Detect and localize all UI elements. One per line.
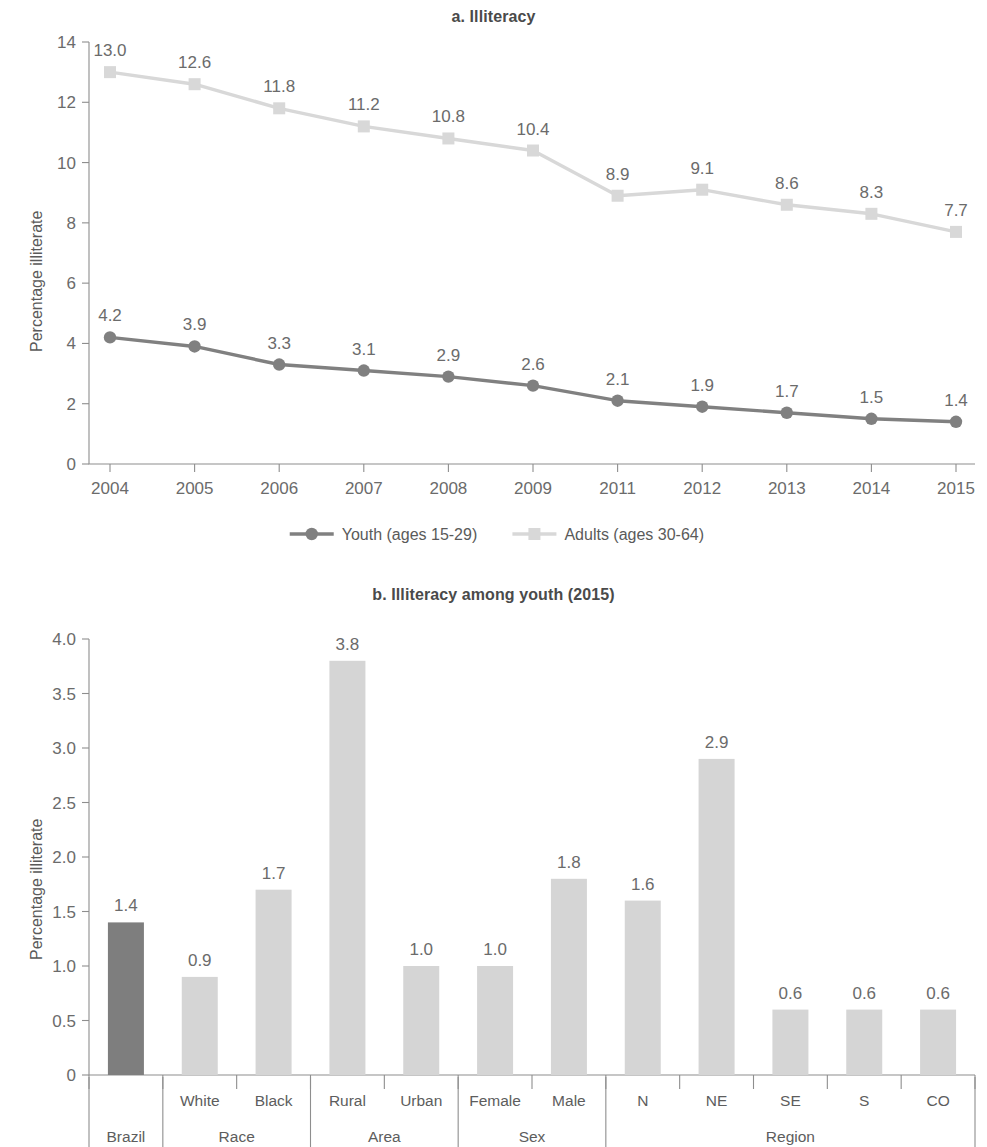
bar[interactable] bbox=[477, 966, 513, 1075]
category-label: NE bbox=[706, 1092, 728, 1109]
bar-value-label: 0.9 bbox=[188, 951, 212, 970]
y-tick-label: 1.0 bbox=[52, 957, 76, 976]
y-tick-label: 3.5 bbox=[52, 685, 76, 704]
category-label: CO bbox=[926, 1092, 949, 1109]
y-tick-label: 1.5 bbox=[52, 903, 76, 922]
category-label: Male bbox=[552, 1092, 586, 1109]
category-label: Female bbox=[469, 1092, 521, 1109]
category-label: Rural bbox=[329, 1092, 366, 1109]
bar-value-label: 1.6 bbox=[631, 875, 655, 894]
bar[interactable] bbox=[772, 1010, 808, 1075]
panel-b-axes bbox=[89, 639, 975, 1075]
group-label: Race bbox=[219, 1128, 255, 1145]
y-tick-label: 3.0 bbox=[52, 739, 76, 758]
bar[interactable] bbox=[699, 759, 735, 1075]
bar[interactable] bbox=[625, 901, 661, 1075]
group-label: Region bbox=[766, 1128, 815, 1145]
panel-b-chart: 00.51.01.52.02.53.03.54.01.40.91.73.81.0… bbox=[0, 0, 987, 1147]
category-label: White bbox=[180, 1092, 220, 1109]
y-tick-label: 0.5 bbox=[52, 1012, 76, 1031]
y-tick-label: 0 bbox=[67, 1066, 76, 1085]
figure-root: a. Illiteracy Percentage illiterate 0246… bbox=[0, 0, 987, 1147]
bar[interactable] bbox=[846, 1010, 882, 1075]
bar-value-label: 0.6 bbox=[852, 984, 876, 1003]
bar-value-label: 0.6 bbox=[779, 984, 803, 1003]
bar[interactable] bbox=[108, 922, 144, 1075]
category-label: N bbox=[637, 1092, 648, 1109]
bar[interactable] bbox=[403, 966, 439, 1075]
bar[interactable] bbox=[182, 977, 218, 1075]
bar-value-label: 1.7 bbox=[262, 864, 286, 883]
category-label: Black bbox=[255, 1092, 293, 1109]
bar-value-label: 1.0 bbox=[409, 940, 433, 959]
category-label: Urban bbox=[400, 1092, 442, 1109]
bar-value-label: 1.0 bbox=[483, 940, 507, 959]
bar-value-label: 2.9 bbox=[705, 733, 729, 752]
bar[interactable] bbox=[256, 890, 292, 1075]
bar-value-label: 3.8 bbox=[336, 635, 360, 654]
y-tick-label: 4.0 bbox=[52, 630, 76, 649]
group-label: Sex bbox=[519, 1128, 546, 1145]
bar-value-label: 1.4 bbox=[114, 896, 138, 915]
y-tick-label: 2.0 bbox=[52, 848, 76, 867]
bar[interactable] bbox=[329, 661, 365, 1075]
group-label: Brazil bbox=[107, 1128, 146, 1145]
bar[interactable] bbox=[920, 1010, 956, 1075]
category-label: SE bbox=[780, 1092, 801, 1109]
bar-value-label: 1.8 bbox=[557, 853, 581, 872]
group-label: Area bbox=[368, 1128, 401, 1145]
bar-value-label: 0.6 bbox=[926, 984, 950, 1003]
y-tick-label: 2.5 bbox=[52, 794, 76, 813]
category-label: S bbox=[859, 1092, 869, 1109]
bar[interactable] bbox=[551, 879, 587, 1075]
